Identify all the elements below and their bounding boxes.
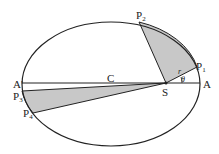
label-p2: P2 bbox=[136, 9, 146, 23]
label-a-prime: A' bbox=[13, 78, 23, 90]
label-p1: P1 bbox=[196, 60, 206, 74]
label-c: C bbox=[107, 72, 114, 84]
label-theta: θ bbox=[181, 75, 185, 84]
focus-point bbox=[165, 82, 168, 85]
orbit-diagram: A' A C S P1 P2 P3 P4 r θ bbox=[0, 0, 219, 154]
label-p3: P3 bbox=[13, 90, 23, 104]
label-s: S bbox=[162, 86, 168, 98]
sector-p3-p4 bbox=[22, 83, 166, 113]
label-a: A bbox=[203, 78, 211, 90]
